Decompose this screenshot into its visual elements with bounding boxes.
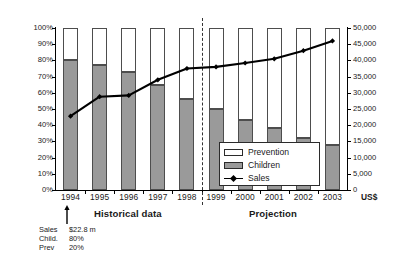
open-rect-swatch-icon <box>224 149 243 156</box>
y-axis-left-tick-label: 80% <box>38 56 53 64</box>
bar-segment-prevention <box>150 28 165 85</box>
y-axis-right-tick <box>347 125 351 126</box>
right-axis-unit-label: US$ <box>361 193 377 202</box>
stacked-bar <box>325 28 340 190</box>
x-axis-tick-label: 1995 <box>86 193 114 202</box>
legend-item-children: Children <box>224 159 315 171</box>
annotation-row-prevention: Prev 20% <box>39 244 96 253</box>
y-axis-right-tick-label: 50,000 <box>353 24 376 32</box>
stacked-bar <box>92 28 107 190</box>
y-axis-right-tick <box>347 174 351 175</box>
y-axis-right-tick-label: 10,000 <box>353 154 376 162</box>
x-axis-tick-label: 1994 <box>57 193 85 202</box>
y-axis-right-tick-label: 25,000 <box>353 105 376 113</box>
y-axis-left-tick-label: 100% <box>34 24 53 32</box>
historical-data-caption: Historical data <box>94 208 162 219</box>
bar-segment-prevention <box>121 28 136 72</box>
stacked-bar <box>150 28 165 190</box>
bar-segment-children <box>179 99 194 190</box>
x-axis-tick-label: 1998 <box>173 193 201 202</box>
y-axis-right-tick <box>347 28 351 29</box>
y-axis-left-tick-label: 50% <box>38 105 53 113</box>
callout-arrow-icon <box>63 205 71 224</box>
y-axis-right-tick <box>347 109 351 110</box>
legend-label-prevention: Prevention <box>248 147 289 157</box>
stacked-bar <box>121 28 136 190</box>
x-axis-tick-label: 1999 <box>202 193 230 202</box>
y-axis-right-labels: 50,00045,00040,00035,00030,00025,00020,0… <box>353 0 398 265</box>
bar-segment-prevention <box>267 28 282 128</box>
y-axis-left-tick-label: 60% <box>38 89 53 97</box>
x-axis-tick-label: 1996 <box>115 193 143 202</box>
y-axis-right-tick <box>347 44 351 45</box>
y-axis-right-tick <box>347 141 351 142</box>
annotation-key-prevention: Prev <box>39 244 69 253</box>
legend-item-sales: Sales <box>224 172 315 184</box>
y-axis-right-tick-label: 0 <box>353 186 357 194</box>
bar-segment-prevention <box>238 28 253 120</box>
filled-rect-swatch-icon <box>224 162 243 169</box>
bar-segment-children <box>150 85 165 190</box>
bar-segment-prevention <box>296 28 311 138</box>
y-axis-right-tick-label: 45,000 <box>353 40 376 48</box>
chart-legend: Prevention Children Sales <box>219 142 320 186</box>
projection-divider-line <box>202 18 203 205</box>
y-axis-left-tick-label: 30% <box>38 137 53 145</box>
y-axis-right-tick <box>347 77 351 78</box>
y-axis-left-tick-label: 20% <box>38 154 53 162</box>
y-axis-right-tick <box>347 60 351 61</box>
bar-segment-prevention <box>209 28 224 109</box>
chart-canvas: 100%90%80%70%60%50%40%30%20%10%0% 50,000… <box>0 0 398 265</box>
bar-segment-prevention <box>179 28 194 99</box>
line-marker-swatch-icon <box>224 175 243 182</box>
x-axis-tick-label: 1997 <box>144 193 172 202</box>
bar-segment-prevention <box>325 28 340 145</box>
projection-caption: Projection <box>249 208 297 219</box>
y-axis-left-tick-label: 40% <box>38 121 53 129</box>
callout-annotation: Sales $22.8 m Child. 80% Prev 20% <box>39 226 96 253</box>
legend-item-prevention: Prevention <box>224 146 315 158</box>
y-axis-right-tick <box>347 158 351 159</box>
y-axis-right-tick-label: 30,000 <box>353 89 376 97</box>
x-axis-tick-label: 2002 <box>289 193 317 202</box>
x-axis-tick-label: 2000 <box>231 193 259 202</box>
y-axis-right-tick-label: 20,000 <box>353 121 376 129</box>
legend-label-children: Children <box>248 160 280 170</box>
y-axis-left-tick <box>52 190 56 191</box>
bar-segment-prevention <box>63 28 78 60</box>
annotation-value-prevention: 20% <box>69 244 84 253</box>
y-axis-right-tick-label: 15,000 <box>353 137 376 145</box>
stacked-bar <box>179 28 194 190</box>
y-axis-right-tick <box>347 190 351 191</box>
y-axis-right-tick <box>347 93 351 94</box>
bar-segment-children <box>121 72 136 190</box>
bar-segment-children <box>325 145 340 190</box>
y-axis-right-tick-label: 40,000 <box>353 56 376 64</box>
bar-segment-children <box>92 65 107 190</box>
y-axis-left-tick-label: 10% <box>38 170 53 178</box>
x-axis-tick-label: 2001 <box>260 193 288 202</box>
bar-segment-children <box>63 60 78 190</box>
y-axis-left-tick-label: 90% <box>38 40 53 48</box>
stacked-bar <box>63 28 78 190</box>
x-axis-tick-label: 2003 <box>318 193 346 202</box>
y-axis-right-tick-label: 35,000 <box>353 73 376 81</box>
y-axis-right-tick-label: 5,000 <box>353 170 372 178</box>
bar-segment-prevention <box>92 28 107 65</box>
legend-label-sales: Sales <box>248 173 270 183</box>
y-axis-left-tick-label: 70% <box>38 73 53 81</box>
